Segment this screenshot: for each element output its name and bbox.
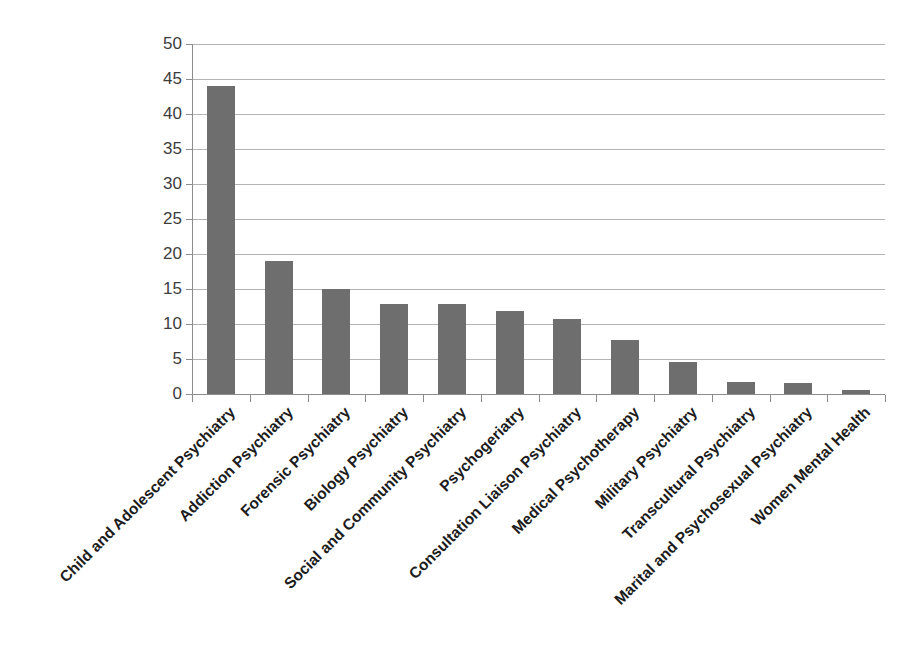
bar[interactable] [496,311,524,394]
gridline [192,114,885,115]
y-tick-mark [186,254,193,255]
y-axis-tick-label: 15 [142,280,182,297]
y-axis-tick-label: 50 [142,35,182,52]
gridline [192,324,885,325]
x-tick-mark [423,395,424,402]
gridline [192,79,885,80]
bar[interactable] [322,289,350,394]
y-axis-tick-label: 40 [142,105,182,122]
x-tick-mark [250,395,251,402]
y-axis-tick-label: 0 [142,385,182,402]
x-tick-mark [539,395,540,402]
x-axis-tick-label: Women Mental Health [748,404,873,529]
bar[interactable] [669,362,697,394]
gridline [192,254,885,255]
bar[interactable] [265,261,293,394]
y-axis-tick-label: 25 [142,210,182,227]
x-tick-mark [192,395,193,402]
y-tick-mark [186,219,193,220]
y-tick-mark [186,44,193,45]
x-axis-tick-label: Forensic Psychiatry [238,404,354,520]
y-axis-tick-label: 5 [142,350,182,367]
x-tick-mark [654,395,655,402]
bar[interactable] [380,304,408,394]
y-axis-tick-label: 35 [142,140,182,157]
x-axis-tick-label: Military Psychiatry [592,404,700,512]
y-tick-mark [186,359,193,360]
x-tick-mark [308,395,309,402]
y-tick-mark [186,184,193,185]
bar[interactable] [784,383,812,394]
y-tick-mark [186,149,193,150]
y-tick-mark [186,79,193,80]
y-tick-mark [186,289,193,290]
y-axis-tick-label: 45 [142,70,182,87]
bar[interactable] [207,86,235,394]
y-axis-tick-label: 20 [142,245,182,262]
x-tick-mark [481,395,482,402]
y-tick-mark [186,114,193,115]
bar[interactable] [727,382,755,394]
gridline [192,149,885,150]
y-axis-labels: 50454035302520151050 [140,0,182,670]
y-axis-tick-label: 30 [142,175,182,192]
gridline [192,219,885,220]
y-axis-tick-label: 10 [142,315,182,332]
x-tick-mark [712,395,713,402]
x-tick-mark [885,395,886,402]
bar-chart: 50454035302520151050 Child and Adolescen… [0,0,920,670]
x-tick-mark [365,395,366,402]
bar[interactable] [438,304,466,394]
gridline [192,289,885,290]
x-axis-tick-label: Addiction Psychiatry [176,404,297,525]
plot-area [192,44,885,394]
x-tick-mark [827,395,828,402]
gridline [192,44,885,45]
x-tick-mark [596,395,597,402]
y-tick-mark [186,324,193,325]
x-axis-tick-label: Biology Psychiatry [301,404,411,514]
gridline [192,359,885,360]
bar[interactable] [553,319,581,394]
bar[interactable] [611,340,639,394]
x-tick-mark [770,395,771,402]
gridline [192,184,885,185]
